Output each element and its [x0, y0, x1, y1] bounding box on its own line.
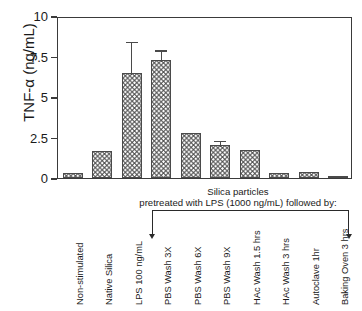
- bar: [210, 145, 230, 178]
- bracket-left-arrow-icon: [149, 234, 155, 239]
- x-tick-label: PBS Wash 3X: [164, 246, 173, 305]
- error-bar-cap: [126, 42, 138, 43]
- chart-figure: TNF-α (ng/mL) 02.557.510 Non-stimulatedN…: [0, 0, 362, 311]
- x-tick-label: LPS 100 ng/mL: [135, 241, 144, 305]
- error-bar-stem: [161, 50, 162, 61]
- bar: [181, 133, 201, 178]
- bar: [63, 173, 83, 178]
- bar: [299, 172, 319, 178]
- bracket-right-side: [348, 210, 349, 236]
- bracket-top-rule: [152, 210, 349, 211]
- error-bar-cap: [155, 50, 167, 51]
- x-tick-label: Baking Oven 3 hrs: [341, 229, 350, 305]
- bracket-left-side: [152, 210, 153, 236]
- x-tick-label: Non-stimulated: [76, 242, 85, 305]
- bar: [240, 150, 260, 178]
- bar: [151, 60, 171, 178]
- y-tick-label: 0: [8, 172, 48, 185]
- y-tick-label: 10: [8, 10, 48, 23]
- x-tick-label: PBS Wash 6X: [194, 246, 203, 305]
- bar: [92, 151, 112, 178]
- group-annotation-line-2: pretreated with LPS (1000 ng/mL) followe…: [120, 197, 356, 208]
- x-tick-label: Autoclave 1hr: [312, 248, 321, 305]
- error-bar-stem: [131, 42, 132, 74]
- group-annotation: Silica particles pretreated with LPS (10…: [120, 186, 356, 208]
- x-tick-label: Native Silica: [105, 254, 114, 305]
- x-tick-label: HAc Wash 3 hrs: [282, 238, 291, 305]
- plot-area: [57, 17, 352, 179]
- y-tick-label: 2.5: [8, 132, 48, 145]
- y-tick-label: 5: [8, 91, 48, 104]
- error-bar-cap: [214, 141, 226, 142]
- x-tick-label: PBS Wash 9X: [223, 246, 232, 305]
- bar: [328, 176, 348, 178]
- bar: [122, 73, 142, 178]
- bar: [269, 173, 289, 178]
- group-bracket: [152, 210, 349, 238]
- x-tick-label: HAc Wash 1.5 hrs: [253, 230, 262, 305]
- group-annotation-line-1: Silica particles: [120, 186, 356, 197]
- bracket-right-arrow-icon: [346, 234, 352, 239]
- y-tick-label: 7.5: [8, 51, 48, 64]
